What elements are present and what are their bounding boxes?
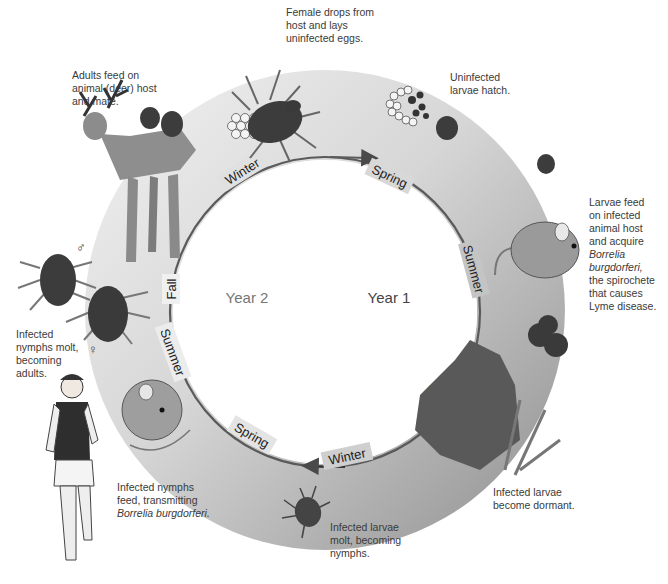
season-label-fall-left: Fall	[162, 274, 180, 304]
svg-text:Fall: Fall	[164, 278, 179, 299]
caption-line: molt, becoming	[330, 534, 401, 547]
caption-line: nymphs molt,	[16, 341, 78, 354]
caption-nymphs-molt: Infected nymphs molt, becoming adults.	[16, 328, 78, 380]
caption-line: nymphs.	[330, 547, 401, 560]
caption-line: Adults feed on	[72, 69, 157, 82]
caption-larvae-hatch: Uninfected larvae hatch.	[450, 71, 510, 97]
caption-line: animal host	[589, 222, 656, 235]
caption-italic-line: Borrelia	[589, 248, 625, 260]
caption-line: feed, transmitting	[117, 494, 210, 507]
caption-line: larvae hatch.	[450, 84, 510, 97]
caption-line: animal (deer) host	[72, 82, 157, 95]
caption-line: that causes	[589, 287, 656, 300]
caption-line: Infected larvae	[493, 486, 575, 499]
caption-line: Infected nymphs	[117, 481, 210, 494]
human-host-runner-illustration	[46, 374, 98, 560]
caption-line: becoming	[16, 354, 78, 367]
female-symbol: ♀	[88, 342, 98, 357]
caption-line: Lyme disease.	[589, 300, 656, 313]
caption-nymphs-feed: Infected nymphs feed, transmitting Borre…	[117, 481, 210, 520]
caption-larvae-feed: Larvae feed on infected animal host and …	[589, 196, 656, 313]
cycle-arrow-top	[330, 157, 370, 158]
caption-larvae-molt: Infected larvae molt, becoming nymphs.	[330, 521, 401, 560]
caption-line: Larvae feed	[589, 196, 656, 209]
caption-line: Infected larvae	[330, 521, 401, 534]
caption-larvae-dormant: Infected larvae become dormant.	[493, 486, 575, 512]
caption-line: become dormant.	[493, 499, 575, 512]
caption-line: Female drops from	[286, 6, 374, 19]
caption-line: host and lays	[286, 19, 374, 32]
year-1-label: Year 1	[368, 289, 411, 306]
caption-line: and acquire	[589, 235, 656, 248]
male-symbol: ♂	[76, 240, 86, 255]
caption-line: uninfected eggs.	[286, 32, 374, 45]
caption-female-lays-eggs: Female drops from host and lays uninfect…	[286, 6, 374, 45]
caption-line: Infected	[16, 328, 78, 341]
caption-adults-feed: Adults feed on animal (deer) host and ma…	[72, 69, 157, 108]
caption-line: the spirochete	[589, 274, 656, 287]
caption-line: adults.	[16, 367, 78, 380]
caption-italic-line: burgdorferi,	[589, 261, 643, 273]
caption-italic-line: Borrelia burgdorferi.	[117, 507, 210, 519]
year-2-label: Year 2	[226, 289, 269, 306]
caption-line: Uninfected	[450, 71, 510, 84]
caption-line: on infected	[589, 209, 656, 222]
caption-line: and mate.	[72, 95, 157, 108]
